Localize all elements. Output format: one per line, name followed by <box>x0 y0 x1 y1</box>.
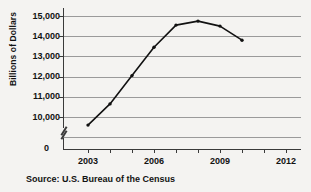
data-series-layer <box>0 0 311 192</box>
source-note: Source: U.S. Bureau of the Census <box>26 174 175 184</box>
data-point <box>174 23 177 26</box>
data-point <box>108 102 111 105</box>
line-series-path <box>88 21 242 125</box>
data-point <box>130 74 133 77</box>
x-axis-tick <box>176 149 177 153</box>
x-axis-tick <box>88 149 89 153</box>
x-axis-tick <box>242 149 243 153</box>
x-axis-tick <box>198 149 199 153</box>
x-axis-tick <box>220 149 221 153</box>
data-point <box>86 123 89 126</box>
x-axis-tick <box>264 149 265 153</box>
chart-container: Billions of Dollars 15,00014,00013,00012… <box>0 0 311 192</box>
x-axis-tick <box>286 149 287 153</box>
x-axis-tick <box>132 149 133 153</box>
data-point <box>152 46 155 49</box>
data-point <box>240 39 243 42</box>
x-axis-tick <box>154 149 155 153</box>
x-axis-tick <box>110 149 111 153</box>
data-point <box>196 19 199 22</box>
data-point <box>218 24 221 27</box>
